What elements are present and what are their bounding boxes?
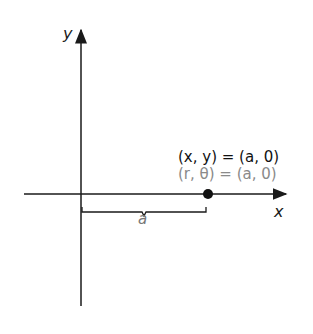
y-axis-label: y	[63, 24, 72, 43]
point-marker	[203, 189, 213, 199]
polar-coordinates-label: (r, θ) = (a, 0)	[178, 165, 277, 183]
rectangular-coordinates-label: (x, y) = (a, 0)	[178, 148, 279, 166]
distance-label: a	[138, 210, 147, 228]
x-axis-label: x	[274, 202, 283, 221]
